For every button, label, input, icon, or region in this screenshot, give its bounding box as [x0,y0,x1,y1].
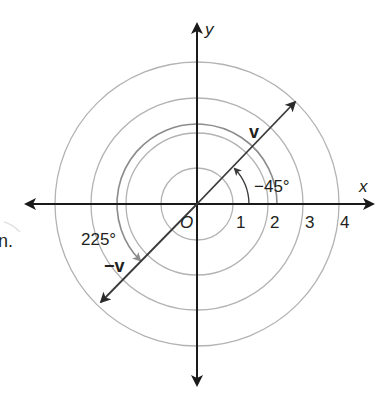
tick-label-4: 4 [340,213,349,232]
origin-label: O [180,213,193,232]
y-axis-label: y [204,20,215,39]
margin-text-fragment: n. [0,231,13,251]
vector-v-label: v [249,122,259,142]
angle-225-label: 225° [81,230,116,249]
polar-diagram: y x O 1 2 3 4 v −45° 225° −v n. [0,0,384,399]
tick-label-2: 2 [270,213,279,232]
angle-neg45-arc [235,169,250,205]
vector-neg-v-label: −v [104,256,125,276]
tick-label-3: 3 [305,213,314,232]
axes [26,24,373,385]
angle-neg45-label: −45° [254,177,290,196]
x-axis-label: x [358,177,368,196]
tick-label-1: 1 [236,213,245,232]
